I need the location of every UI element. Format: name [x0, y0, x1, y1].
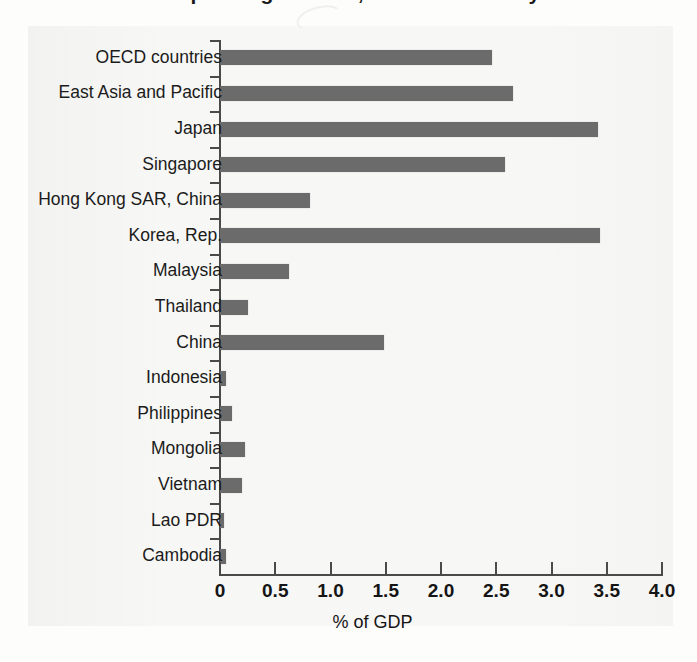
x-axis-tick	[274, 562, 276, 575]
category-label: Vietnam	[0, 476, 222, 494]
bar	[220, 228, 600, 243]
x-axis-tick	[606, 562, 608, 575]
bar	[220, 442, 245, 457]
y-axis-tick	[210, 147, 220, 149]
category-label: Japan	[0, 120, 222, 138]
x-axis-tick-label: 0	[190, 580, 250, 602]
bar	[220, 86, 513, 101]
x-axis-tick	[440, 562, 442, 575]
bar	[220, 300, 248, 315]
x-axis-tick	[385, 562, 387, 575]
bar	[220, 193, 310, 208]
y-axis-tick	[210, 360, 220, 362]
y-axis-tick	[210, 325, 220, 327]
y-axis-tick	[210, 396, 220, 398]
y-axis-tick	[210, 289, 220, 291]
x-axis-tick-label: 3.0	[522, 580, 582, 602]
y-axis-tick	[210, 467, 220, 469]
x-axis-tick-label: 2.0	[411, 580, 471, 602]
category-label: Malaysia	[0, 262, 222, 280]
y-axis-tick	[210, 76, 220, 78]
category-label: Indonesia	[0, 369, 222, 387]
y-axis-tick	[210, 254, 220, 256]
y-axis-tick	[210, 218, 220, 220]
x-axis-tick-label: 0.5	[245, 580, 305, 602]
y-axis-tick	[210, 182, 220, 184]
y-axis-tick	[210, 503, 220, 505]
bar-chart-plot: OECD countriesEast Asia and PacificJapan…	[0, 0, 697, 662]
x-axis-tick	[330, 562, 332, 575]
x-axis-tick-label: 2.5	[466, 580, 526, 602]
category-label: OECD countries	[0, 49, 222, 67]
category-label: Thailand	[0, 298, 222, 316]
x-axis-tick-label: 3.5	[577, 580, 637, 602]
category-label: Philippines	[0, 405, 222, 423]
x-axis-tick-label: 1.0	[301, 580, 361, 602]
category-label: Korea, Rep.	[0, 227, 222, 245]
x-axis-tick-label: 4.0	[632, 580, 692, 602]
category-label: Cambodia	[0, 547, 222, 565]
bar	[220, 335, 384, 350]
bar	[220, 50, 492, 65]
y-axis-tick	[210, 432, 220, 434]
bar	[220, 157, 505, 172]
figure-container: FIGURE 1.1Spending on R&D, latest availa…	[0, 0, 697, 662]
category-label: East Asia and Pacific	[0, 84, 222, 102]
x-axis-title: % of GDP	[0, 612, 697, 633]
bar	[220, 478, 242, 493]
bar	[220, 122, 598, 137]
category-label: Lao PDR	[0, 512, 222, 530]
y-axis-tick	[210, 538, 220, 540]
x-axis-tick	[219, 562, 221, 575]
x-axis-tick	[551, 562, 553, 575]
category-label: China	[0, 334, 222, 352]
category-label: Hong Kong SAR, China	[0, 191, 222, 209]
bar	[220, 264, 289, 279]
x-axis-tick	[661, 562, 663, 575]
y-axis-tick	[210, 40, 220, 42]
x-axis-tick	[495, 562, 497, 575]
category-label: Singapore	[0, 156, 222, 174]
x-axis-tick-label: 1.5	[356, 580, 416, 602]
y-axis-tick	[210, 111, 220, 113]
category-label: Mongolia	[0, 440, 222, 458]
